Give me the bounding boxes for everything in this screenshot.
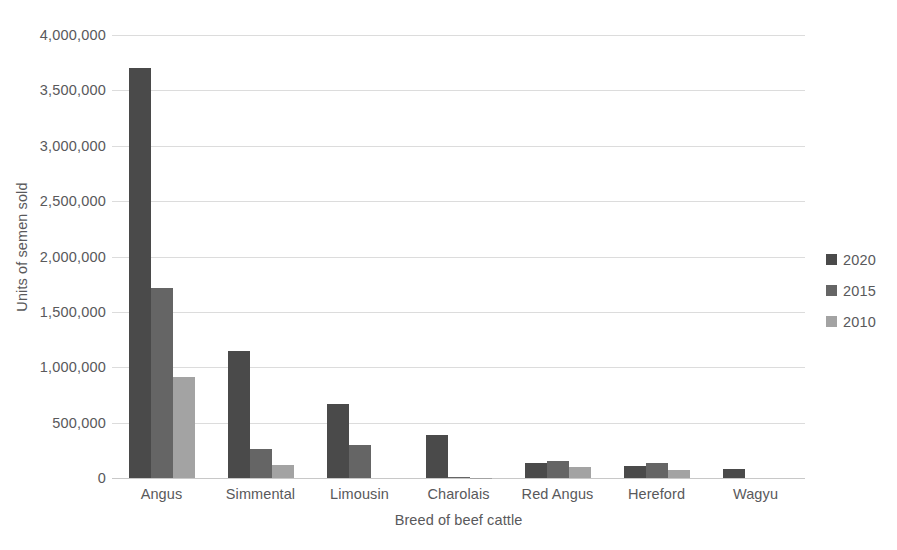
- bar-2015[interactable]: [448, 477, 470, 478]
- bar-group: [607, 35, 706, 478]
- y-axis-tick-label: 3,000,000: [0, 138, 106, 154]
- x-axis-tick-label: Wagyu: [706, 486, 805, 508]
- bar-group: [706, 35, 805, 478]
- y-axis-tick-labels: 4,000,0003,500,0003,000,0002,500,0002,00…: [0, 0, 106, 550]
- x-axis-tick-label: Simmental: [211, 486, 310, 508]
- bar-2010[interactable]: [272, 465, 294, 478]
- x-axis-tick-labels: AngusSimmentalLimousinCharolaisRed Angus…: [112, 486, 805, 508]
- y-axis-tick-label: 1,500,000: [0, 304, 106, 320]
- bar-group: [409, 35, 508, 478]
- legend-item-2020[interactable]: 2020: [826, 244, 896, 275]
- y-axis-tick-label: 2,500,000: [0, 193, 106, 209]
- bar-2015[interactable]: [250, 449, 272, 478]
- x-axis-tick-label: Charolais: [409, 486, 508, 508]
- bar-cluster: [607, 35, 706, 478]
- bar-2015[interactable]: [547, 461, 569, 478]
- y-axis-tick-label: 0: [0, 470, 106, 486]
- x-axis-title: Breed of beef cattle: [112, 512, 805, 528]
- bar-group: [310, 35, 409, 478]
- bar-cluster: [706, 35, 805, 478]
- bar-2020[interactable]: [327, 404, 349, 478]
- legend-label: 2010: [843, 314, 876, 330]
- bar-2020[interactable]: [228, 351, 250, 478]
- bar-cluster: [112, 35, 211, 478]
- y-axis-tick-label: 500,000: [0, 415, 106, 431]
- legend-swatch-icon: [826, 285, 837, 296]
- bar-2020[interactable]: [426, 435, 448, 478]
- bar-group: [508, 35, 607, 478]
- bar-2015[interactable]: [151, 288, 173, 478]
- legend-swatch-icon: [826, 316, 837, 327]
- x-axis-tick-label: Limousin: [310, 486, 409, 508]
- legend-item-2015[interactable]: 2015: [826, 275, 896, 306]
- bar-cluster: [310, 35, 409, 478]
- bar-2020[interactable]: [525, 463, 547, 479]
- bar-2015[interactable]: [646, 463, 668, 478]
- legend-label: 2015: [843, 283, 876, 299]
- plot-area: [112, 35, 805, 478]
- bar-2010[interactable]: [569, 467, 591, 478]
- y-axis-tick-label: 1,000,000: [0, 359, 106, 375]
- bar-2010[interactable]: [668, 470, 690, 478]
- legend-swatch-icon: [826, 254, 837, 265]
- y-axis-tick-label: 2,000,000: [0, 249, 106, 265]
- bar-cluster: [508, 35, 607, 478]
- bar-group: [112, 35, 211, 478]
- x-axis-tick-label: Red Angus: [508, 486, 607, 508]
- bar-cluster: [409, 35, 508, 478]
- bar-chart: Units of semen sold 4,000,0003,500,0003,…: [0, 0, 897, 550]
- y-axis-tick-label: 3,500,000: [0, 82, 106, 98]
- legend-label: 2020: [843, 252, 876, 268]
- x-axis-tick-label: Hereford: [607, 486, 706, 508]
- bar-groups: [112, 35, 805, 478]
- bar-2010[interactable]: [173, 377, 195, 478]
- bar-cluster: [211, 35, 310, 478]
- bar-2015[interactable]: [349, 445, 371, 478]
- bar-2020[interactable]: [624, 466, 646, 478]
- bar-group: [211, 35, 310, 478]
- bar-2020[interactable]: [723, 469, 745, 478]
- legend-item-2010[interactable]: 2010: [826, 306, 896, 337]
- bar-2020[interactable]: [129, 68, 151, 478]
- axis-baseline: [112, 478, 805, 479]
- y-axis-tick-label: 4,000,000: [0, 27, 106, 43]
- x-axis-tick-label: Angus: [112, 486, 211, 508]
- legend: 202020152010: [826, 244, 896, 337]
